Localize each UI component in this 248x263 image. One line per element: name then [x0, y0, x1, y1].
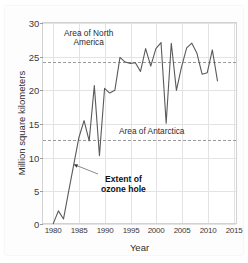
- annotation-antarctica: Area of Antarctica: [119, 127, 185, 136]
- x-tick-label-1990: 1990: [97, 226, 114, 235]
- plot-area: 30 25 20 15 10 5 0 1980 1985 1990 1995 2…: [42, 22, 237, 224]
- annotation-north-america-line2: America: [64, 38, 113, 47]
- y-tick-label-15: 15: [29, 119, 39, 130]
- annotation-ozone-hole: Extent of ozone hole: [101, 175, 146, 195]
- x-tick-label-1985: 1985: [71, 226, 88, 235]
- y-tick-label-10: 10: [29, 153, 39, 164]
- x-tick-label-2000: 2000: [148, 226, 165, 235]
- y-tick-label-5: 5: [34, 186, 39, 197]
- x-tick-label-1980: 1980: [45, 226, 62, 235]
- y-axis-title-text: Million square kilometers: [16, 71, 27, 176]
- y-tick-label-0: 0: [34, 219, 39, 230]
- annotation-ozone-hole-line2: ozone hole: [101, 185, 146, 195]
- x-axis-title: Year: [42, 242, 237, 253]
- y-tick-label-25: 25: [29, 52, 39, 63]
- y-tick-label-30: 30: [29, 18, 39, 29]
- annotation-north-america: Area of North America: [64, 29, 113, 48]
- x-tick-label-1995: 1995: [123, 226, 140, 235]
- y-tick-label-20: 20: [29, 85, 39, 96]
- y-axis-title: Million square kilometers: [14, 22, 28, 224]
- ozone-hole-chart-figure: Million square kilometers Year 30: [0, 0, 248, 263]
- x-tick-label-2010: 2010: [200, 226, 217, 235]
- x-tick-label-2005: 2005: [174, 226, 191, 235]
- x-tick-label-2015: 2015: [226, 226, 243, 235]
